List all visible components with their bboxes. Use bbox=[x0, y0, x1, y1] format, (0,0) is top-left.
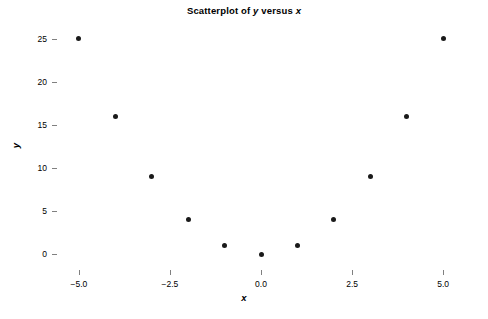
y-tick-mark bbox=[52, 82, 57, 83]
x-tick-label: −2.5 bbox=[162, 279, 179, 289]
chart-title: Scatterplot of y versus x bbox=[0, 5, 488, 16]
chart-title-variable-x: x bbox=[296, 5, 301, 16]
x-tick-mark bbox=[443, 270, 444, 275]
x-tick-mark bbox=[79, 270, 80, 275]
y-tick-label: 15 bbox=[17, 120, 47, 130]
x-tick-label: 0.0 bbox=[255, 279, 267, 289]
x-tick-mark bbox=[170, 270, 171, 275]
y-tick-label: 0 bbox=[17, 249, 47, 259]
chart-title-middle: versus bbox=[259, 5, 296, 16]
y-tick-mark bbox=[52, 211, 57, 212]
x-axis-label: x bbox=[0, 292, 488, 303]
plot-area-frame bbox=[57, 25, 465, 270]
x-tick-label: 2.5 bbox=[346, 279, 358, 289]
y-tick-label: 5 bbox=[17, 206, 47, 216]
y-tick-label: 10 bbox=[17, 163, 47, 173]
y-tick-mark bbox=[52, 39, 57, 40]
y-tick-mark bbox=[52, 125, 57, 126]
y-axis-label: y bbox=[10, 139, 21, 153]
x-tick-label: −5.0 bbox=[70, 279, 87, 289]
chart-title-prefix: Scatterplot of bbox=[187, 5, 253, 16]
x-tick-label: 5.0 bbox=[437, 279, 449, 289]
x-tick-mark bbox=[261, 270, 262, 275]
scatterplot-figure: Scatterplot of y versus x 0510152025 −5.… bbox=[0, 0, 488, 319]
y-tick-mark bbox=[52, 254, 57, 255]
y-tick-label: 25 bbox=[17, 34, 47, 44]
y-tick-mark bbox=[52, 168, 57, 169]
y-tick-label: 20 bbox=[17, 77, 47, 87]
x-tick-mark bbox=[352, 270, 353, 275]
